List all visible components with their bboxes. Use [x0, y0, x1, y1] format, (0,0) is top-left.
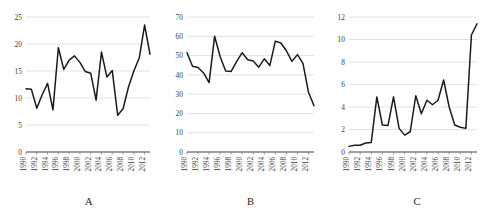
x-axis-tick-label: 2012	[302, 157, 310, 172]
x-axis-tick-label: 2002	[247, 157, 255, 172]
y-axis-tick-label: 0	[341, 148, 345, 157]
y-axis-tick-label: 4	[341, 103, 345, 112]
chart-c-plot: 0246810121990199219941996199820002002200…	[325, 0, 493, 196]
x-axis-tick-label: 2004	[421, 157, 429, 172]
x-axis-tick-label: 1994	[42, 157, 50, 172]
x-axis-tick-label: 1998	[388, 157, 396, 172]
y-axis-tick-label: 20	[15, 40, 23, 49]
x-axis-tick-label: 2012	[139, 157, 147, 172]
x-axis-tick-label: 1992	[354, 157, 362, 172]
chart-a-caption: A	[0, 196, 160, 207]
y-axis-tick-label: 20	[176, 109, 184, 118]
x-axis-tick-label: 2006	[269, 157, 277, 172]
x-axis-tick-label: 1998	[225, 157, 233, 172]
y-axis-tick-label: 5	[18, 121, 22, 130]
x-axis-tick-label: 1996	[214, 157, 222, 172]
y-axis-tick-label: 10	[176, 128, 184, 137]
x-axis-tick-label: 2006	[106, 157, 114, 172]
data-series-line	[349, 24, 477, 147]
x-axis-tick-label: 1992	[192, 157, 200, 172]
x-axis-tick-label: 1998	[63, 157, 71, 172]
y-axis-tick-label: 2	[341, 125, 345, 134]
x-axis-tick-label: 1994	[365, 157, 373, 172]
x-axis-tick-label: 2002	[85, 157, 93, 172]
y-axis-tick-label: 0	[179, 148, 183, 157]
x-axis-tick-label: 2010	[291, 157, 299, 172]
x-axis-tick-label: 1990	[181, 157, 189, 172]
chart-panel-c: 0246810121990199219941996199820002002200…	[325, 0, 493, 218]
x-axis-tick-label: 1994	[203, 157, 211, 172]
x-axis-tick-label: 2000	[399, 157, 407, 172]
y-axis-tick-label: 0	[18, 148, 22, 157]
x-axis-tick-label: 2008	[280, 157, 288, 172]
x-axis-tick-label: 2004	[258, 157, 266, 172]
y-axis-tick-label: 30	[176, 90, 184, 99]
y-axis-tick-label: 50	[176, 51, 184, 60]
y-axis-tick-label: 60	[176, 32, 184, 41]
data-series-line	[187, 36, 314, 105]
x-axis-tick-label: 2000	[236, 157, 244, 172]
x-axis-tick-label: 2006	[432, 157, 440, 172]
x-axis-tick-label: 2000	[74, 157, 82, 172]
y-axis-tick-label: 15	[15, 67, 23, 76]
y-axis-tick-label: 8	[341, 58, 345, 67]
chart-panel-b: 0102030405060701990199219941996199820002…	[160, 0, 325, 218]
chart-b-plot: 0102030405060701990199219941996199820002…	[160, 0, 325, 196]
x-axis-tick-label: 1992	[31, 157, 39, 172]
y-axis-tick-label: 25	[15, 13, 23, 22]
chart-b-caption: B	[160, 196, 325, 207]
x-axis-tick-label: 1990	[343, 157, 351, 172]
chart-c-caption: C	[325, 196, 493, 207]
x-axis-tick-label: 1990	[20, 157, 28, 172]
x-axis-tick-label: 2008	[443, 157, 451, 172]
x-axis-tick-label: 1996	[376, 157, 384, 172]
chart-panel-a: 0510152025199019921994199619982000200220…	[0, 0, 160, 218]
y-axis-tick-label: 10	[338, 35, 346, 44]
x-axis-tick-label: 2010	[454, 157, 462, 172]
y-axis-tick-label: 10	[15, 94, 23, 103]
data-series-line	[26, 25, 150, 115]
x-axis-tick-label: 2008	[117, 157, 125, 172]
y-axis-tick-label: 70	[176, 13, 184, 22]
x-axis-tick-label: 2002	[410, 157, 418, 172]
x-axis-tick-label: 1996	[52, 157, 60, 172]
x-axis-tick-label: 2004	[95, 157, 103, 172]
x-axis-tick-label: 2012	[465, 157, 473, 172]
x-axis-tick-label: 2010	[128, 157, 136, 172]
chart-a-plot: 0510152025199019921994199619982000200220…	[0, 0, 160, 196]
three-panel-line-chart-figure: 0510152025199019921994199619982000200220…	[0, 0, 493, 218]
y-axis-tick-label: 12	[338, 13, 346, 22]
y-axis-tick-label: 40	[176, 71, 184, 80]
y-axis-tick-label: 6	[341, 80, 345, 89]
